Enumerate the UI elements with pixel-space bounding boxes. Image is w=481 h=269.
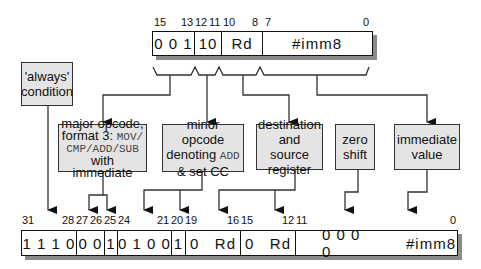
thumb-field-opcode: 0 0 1 xyxy=(153,32,195,55)
bit-label: 15 xyxy=(241,215,253,226)
arm-field-cond: 1 1 1 0 xyxy=(22,231,77,255)
arm-field-i: 1 xyxy=(105,231,118,255)
arm-field-rd: 0 Rd xyxy=(241,231,296,255)
always-condition-box: 'always' condition xyxy=(21,62,73,106)
arm-field-opcode: 0 1 0 0 xyxy=(118,231,172,255)
arm-field-imm8: #imm8 xyxy=(406,235,456,252)
thumb-field-rd: Rd xyxy=(222,32,263,55)
bit-label: 27 xyxy=(76,215,88,226)
bit-label: 21 xyxy=(157,215,169,226)
bit-label: 11 xyxy=(296,215,307,226)
arm-field-op: 0 0 xyxy=(77,231,105,255)
thumb-field-imm8: #imm8 xyxy=(263,32,371,55)
arm-field-s: 1 xyxy=(172,231,186,255)
bit-label: 0 xyxy=(450,215,456,226)
bit-label: 0 xyxy=(363,17,369,28)
dest-source-register-box: destination and source register xyxy=(256,124,323,170)
arm-field-rn: 0 Rd xyxy=(186,231,241,255)
major-opcode-box: major opcode, format 3: MOV/ CMP/ADD/SUB… xyxy=(58,124,147,172)
bit-label: 12 xyxy=(282,215,294,226)
bit-label: 20 xyxy=(171,215,183,226)
bit-label: 8 xyxy=(252,17,258,28)
zero-shift-box: zero shift xyxy=(335,124,375,170)
bit-label: 10 xyxy=(223,17,235,28)
bit-label: 24 xyxy=(118,215,130,226)
bit-label: 13 xyxy=(181,17,193,28)
bit-label: 7 xyxy=(265,17,271,28)
minor-opcode-box: minor opcode denoting ADD & set CC xyxy=(162,124,244,172)
thumb-field-op: 10 xyxy=(195,32,222,55)
thumb-instruction-bar: 0 0 1 10 Rd #imm8 xyxy=(152,31,373,56)
bit-label: 31 xyxy=(22,215,34,226)
bit-label: 12 xyxy=(195,17,207,28)
bit-label: 25 xyxy=(104,215,116,226)
arm-instruction-bar: 1 1 1 0 0 0 1 0 1 0 0 1 0 Rd 0 Rd 0 0 0 … xyxy=(21,230,458,256)
bit-label: 26 xyxy=(90,215,102,226)
arm-field-rotate: 0 0 0 0 xyxy=(322,226,372,260)
bit-label: 19 xyxy=(185,215,197,226)
immediate-value-box: immediate value xyxy=(394,124,460,170)
bit-label: 16 xyxy=(227,215,239,226)
bit-label: 15 xyxy=(154,17,166,28)
bit-label: 28 xyxy=(62,215,74,226)
bit-label: 11 xyxy=(209,17,220,28)
arm-field-operand2: 0 0 0 0 #imm8 xyxy=(296,231,456,255)
